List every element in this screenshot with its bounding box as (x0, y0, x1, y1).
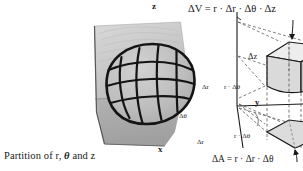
y-axis (237, 103, 303, 106)
delta-r-bottom-label: Δr (197, 139, 204, 146)
volume-formula-label: ΔV = r · Δr · Δθ · Δz (188, 4, 276, 15)
volume-formula-pointer (292, 20, 293, 39)
r-delta-theta-bottom-label: r · Δθ (234, 133, 250, 140)
area-element-patch (267, 120, 303, 148)
delta-z-label: Δz (248, 52, 257, 61)
z-axis-label: z (152, 2, 156, 11)
area-formula-pointer (295, 150, 297, 162)
left-figure-panel: Partition of r, θ and z (0, 0, 150, 171)
delta-r-top-label: Δr (202, 84, 209, 91)
volume-element-box (267, 42, 303, 93)
caption-suffix: and z (72, 150, 95, 161)
x-axis (237, 106, 243, 148)
delta-theta-angle-label: Δθ (179, 113, 187, 120)
area-formula-label: ΔA = r · Δr · Δθ (212, 155, 273, 165)
caption-theta-symbol: θ (64, 150, 70, 161)
right-figure-panel: ΔV = r · Δr · Δθ · Δz ΔA = r · Δr · Δθ Δ… (150, 0, 303, 171)
caption-prefix: Partition of r, (4, 150, 61, 161)
x-axis-label: x (158, 145, 163, 154)
y-axis-label: y (255, 98, 260, 107)
r-delta-theta-top-label: r · Δθ (224, 84, 240, 91)
left-panel-caption: Partition of r, θ and z (4, 150, 150, 161)
